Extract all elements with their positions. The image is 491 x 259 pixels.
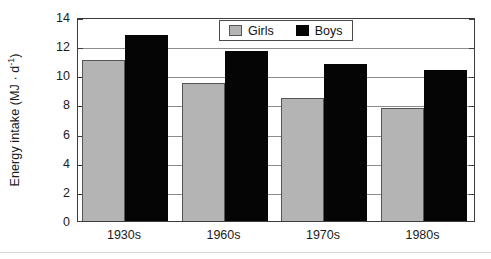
bar-chart-figure: Energy intake (MJ · d-1) 02468101214 Gir… — [0, 0, 491, 259]
y-axis-title-end: ) — [8, 54, 22, 58]
x-axis-tick-label: 1970s — [306, 228, 340, 242]
x-axis-tick-label: 1980s — [405, 228, 439, 242]
y-axis-tick-labels: 02468101214 — [36, 18, 70, 222]
y-axis-tick-label: 12 — [36, 41, 70, 53]
y-axis-title: Energy intake (MJ · d-1) — [0, 18, 30, 222]
bar-girls-1970s — [281, 98, 324, 221]
x-axis-tick-label: 1960s — [206, 228, 240, 242]
y-axis-tickmark — [469, 165, 474, 166]
legend-swatch-boys-icon — [296, 25, 309, 36]
bar-girls-1960s — [182, 83, 225, 221]
y-axis-tickmark — [469, 19, 474, 20]
legend-entry-boys: Boys — [296, 24, 343, 38]
legend-label-boys: Boys — [315, 24, 343, 38]
y-axis-tickmark — [469, 194, 474, 195]
bar-boys-1960s — [225, 51, 268, 221]
bar-girls-1980s — [381, 108, 424, 221]
y-axis-tick-label: 4 — [36, 158, 70, 170]
bar-boys-1970s — [324, 64, 367, 221]
y-axis-title-main: Energy intake (MJ · d — [8, 66, 22, 187]
y-axis-tickmark — [469, 136, 474, 137]
y-axis-tickmark — [78, 48, 83, 49]
x-axis-tick-label: 1930s — [107, 228, 141, 242]
x-axis-tick-labels: 1930s1960s1970s1980s — [77, 228, 475, 246]
bar-boys-1930s — [125, 35, 168, 221]
y-axis-tickmark — [469, 106, 474, 107]
y-axis-tick-label: 8 — [36, 99, 70, 111]
chart-legend: Girls Boys — [219, 20, 353, 41]
plot-area — [77, 18, 475, 222]
y-axis-tickmark — [469, 77, 474, 78]
y-axis-tick-label: 2 — [36, 187, 70, 199]
y-axis-tick-label: 10 — [36, 70, 70, 82]
y-axis-title-text: Energy intake (MJ · d-1) — [8, 54, 22, 187]
y-axis-tick-label: 14 — [36, 12, 70, 24]
bar-boys-1980s — [424, 70, 467, 221]
y-axis-tick-label: 0 — [36, 216, 70, 228]
y-axis-tick-label: 6 — [36, 129, 70, 141]
y-axis-tickmark — [78, 19, 83, 20]
y-axis-title-superscript: -1 — [6, 58, 16, 66]
legend-swatch-girls-icon — [229, 25, 242, 36]
bar-girls-1930s — [82, 60, 125, 221]
page-bottom-rule — [0, 252, 491, 253]
legend-entry-girls: Girls — [229, 24, 274, 38]
y-axis-tickmark — [469, 48, 474, 49]
legend-label-girls: Girls — [248, 24, 274, 38]
